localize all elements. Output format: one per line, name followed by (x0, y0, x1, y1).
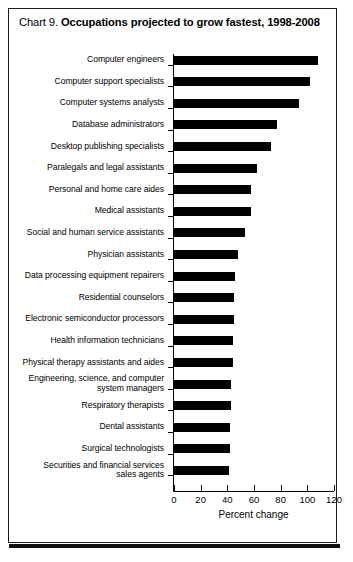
category-label: Residential counselors (79, 293, 164, 303)
x-axis-tick (281, 485, 282, 491)
y-axis-tick (168, 173, 173, 174)
y-axis-tick (168, 281, 173, 282)
bar (174, 228, 245, 237)
category-label: Surgical technologists (82, 444, 165, 454)
x-axis-tick (174, 485, 175, 491)
y-axis-tick (168, 216, 173, 217)
bar (174, 120, 277, 129)
bar (174, 466, 229, 475)
plot-area: Percent change 020406080100120Computer e… (9, 50, 338, 544)
y-axis-tick (168, 130, 173, 131)
bar (174, 315, 234, 324)
y-axis-tick (168, 108, 173, 109)
x-axis-tick (254, 485, 255, 491)
category-label: Dental assistants (99, 422, 164, 432)
x-axis-tick-label: 100 (299, 494, 315, 505)
bar (174, 380, 231, 389)
bar (174, 423, 230, 432)
category-label: Physician assistants (88, 250, 164, 260)
y-axis-tick (168, 454, 173, 455)
y-axis-tick (168, 238, 173, 239)
chart-title-prefix: Chart 9. (19, 16, 58, 28)
bar (174, 207, 251, 216)
bar (174, 185, 251, 194)
category-label: Physical therapy assistants and aides (23, 358, 164, 368)
category-label: Electronic semiconductor processors (25, 314, 164, 324)
x-axis-line (173, 491, 334, 492)
x-axis-tick (201, 485, 202, 491)
bar (174, 99, 299, 108)
category-label: Personal and home care aides (49, 185, 164, 195)
category-label: Engineering, science, and computer syste… (29, 374, 164, 393)
y-axis-tick (168, 389, 173, 390)
x-axis-tick-label: 80 (275, 494, 286, 505)
bar (174, 401, 231, 410)
y-axis-tick (168, 346, 173, 347)
x-axis-tick-label: 40 (222, 494, 233, 505)
y-axis-tick (168, 65, 173, 66)
category-label: Desktop publishing specialists (51, 142, 164, 152)
category-label: Respiratory therapists (82, 401, 164, 411)
bar (174, 444, 230, 453)
x-axis-tick-label: 0 (171, 494, 176, 505)
category-label: Paralegals and legal assistants (47, 163, 164, 173)
y-axis-tick (168, 324, 173, 325)
x-axis-tick-label: 20 (195, 494, 206, 505)
bar (174, 56, 318, 65)
bar (174, 250, 238, 259)
y-axis-tick (168, 410, 173, 411)
y-axis-tick (168, 367, 173, 368)
chart-title-main: Occupations projected to grow fastest, 1… (61, 16, 320, 28)
bar (174, 336, 233, 345)
bar (174, 164, 257, 173)
y-axis-tick (168, 432, 173, 433)
x-axis-tick-label: 120 (326, 494, 342, 505)
category-label: Computer engineers (87, 55, 164, 65)
category-label: Computer support specialists (55, 77, 164, 87)
y-axis-tick (168, 86, 173, 87)
bar (174, 142, 271, 151)
y-axis-tick (168, 259, 173, 260)
category-label: Social and human service assistants (27, 228, 164, 238)
bar (174, 272, 235, 281)
y-axis-tick (168, 302, 173, 303)
x-axis-tick (227, 485, 228, 491)
category-label: Health information technicians (50, 336, 164, 346)
page-title: Chart 9. Occupations projected to grow f… (19, 15, 328, 29)
x-axis-tick (334, 485, 335, 491)
x-axis-title: Percent change (173, 509, 334, 520)
frame-bottom-shadow (9, 544, 340, 548)
bar (174, 77, 310, 86)
bar (174, 293, 234, 302)
x-axis-tick (307, 485, 308, 491)
category-label: Computer systems analysts (60, 98, 164, 108)
y-axis-tick (168, 151, 173, 152)
x-axis-tick-label: 60 (249, 494, 260, 505)
y-axis-tick (168, 475, 173, 476)
category-label: Database administrators (72, 120, 164, 130)
category-label: Medical assistants (95, 206, 164, 216)
category-label: Securities and financial services sales … (43, 461, 164, 480)
bar (174, 358, 233, 367)
y-axis-tick (168, 194, 173, 195)
category-label: Data processing equipment repairers (25, 271, 164, 281)
chart-figure-frame: Chart 9. Occupations projected to grow f… (8, 8, 337, 543)
